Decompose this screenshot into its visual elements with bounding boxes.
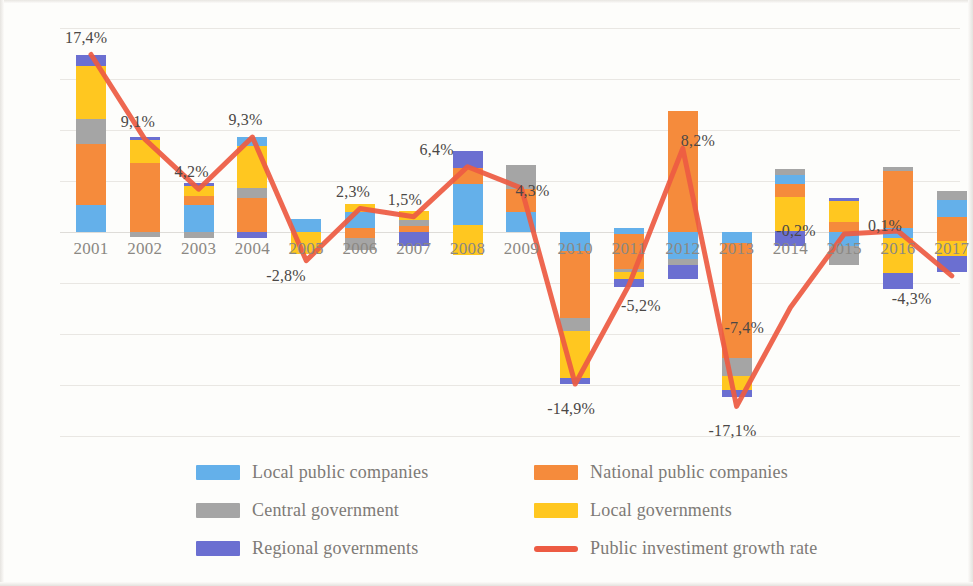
legend-label: Local public companies (252, 462, 428, 483)
legend-item[interactable]: Local public companies (196, 462, 428, 483)
legend-item[interactable]: Central government (196, 500, 399, 521)
paper-edge-top (0, 0, 973, 3)
legend-item[interactable]: National public companies (534, 462, 788, 483)
legend-label: Central government (252, 500, 399, 521)
gridline (60, 436, 960, 437)
data-label: -17,1% (709, 422, 757, 440)
legend-item[interactable]: Regional governments (196, 538, 418, 559)
plot-area: 20%15%10%5%0%-5%-10%-15%-20% 17,4%9,1%4,… (60, 28, 960, 436)
data-label: 4,3% (515, 182, 549, 200)
data-label: -5,2% (621, 297, 661, 315)
data-label: -2,8% (266, 267, 306, 285)
paper-edge-bottom (0, 582, 973, 586)
data-label: 0,1% (868, 217, 902, 235)
data-label: 6,4% (420, 141, 454, 159)
data-label: -0,2% (776, 222, 816, 240)
legend-label: Local governments (590, 500, 732, 521)
legend-item[interactable]: Public investiment growth rate (534, 538, 817, 559)
legend-swatch-icon (196, 503, 240, 518)
legend-line-icon (534, 546, 578, 552)
data-label: 4,2% (175, 163, 209, 181)
data-label: -4,3% (892, 290, 932, 308)
data-label: 9,1% (121, 113, 155, 131)
growth-rate-polyline (91, 55, 952, 407)
data-label: 17,4% (65, 29, 107, 47)
legend-swatch-icon (196, 465, 240, 480)
paper-edge-left (0, 0, 4, 586)
data-label: 2,3% (336, 183, 370, 201)
data-label: -14,9% (547, 400, 595, 418)
legend-swatch-icon (196, 541, 240, 556)
growth-rate-line (60, 28, 960, 436)
paper-edge-right (968, 0, 973, 586)
data-label: 1,5% (388, 191, 422, 209)
data-label: 8,2% (681, 132, 715, 150)
legend-label: Public investiment growth rate (590, 538, 817, 559)
legend-label: Regional governments (252, 538, 418, 559)
legend-label: National public companies (590, 462, 788, 483)
data-label: 9,3% (228, 111, 262, 129)
chart-legend: Local public companiesNational public co… (196, 462, 896, 572)
legend-swatch-icon (534, 503, 578, 518)
legend-item[interactable]: Local governments (534, 500, 732, 521)
x-axis-tick-label: 2017 (920, 239, 973, 259)
legend-swatch-icon (534, 465, 578, 480)
data-label: -7,4% (724, 319, 764, 337)
chart-container: 20%15%10%5%0%-5%-10%-15%-20% 17,4%9,1%4,… (0, 0, 973, 586)
